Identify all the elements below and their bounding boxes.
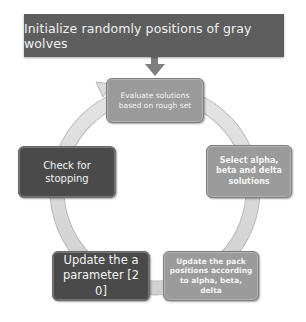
node-label: Select alpha, beta and delta solutions [211, 156, 287, 187]
node-check-stopping: Check for stopping [18, 146, 116, 198]
node-label: Evaluate solutions based on rough set [111, 91, 199, 111]
node-select-solutions: Select alpha, beta and delta solutions [206, 145, 292, 198]
node-evaluate-solutions: Evaluate solutions based on rough set [106, 78, 204, 123]
down-arrow-icon [145, 57, 165, 76]
node-label: Update the a parameter [2 0] [57, 253, 145, 300]
node-label: Update the pack positions according to a… [168, 257, 254, 296]
start-node-initialize: Initialize randomly positions of gray wo… [24, 14, 284, 57]
start-node-label: Initialize randomly positions of gray wo… [24, 21, 284, 51]
node-label: Check for stopping [23, 159, 111, 185]
node-update-pack-positions: Update the pack positions according to a… [163, 251, 259, 301]
node-update-a-parameter: Update the a parameter [2 0] [52, 251, 150, 301]
